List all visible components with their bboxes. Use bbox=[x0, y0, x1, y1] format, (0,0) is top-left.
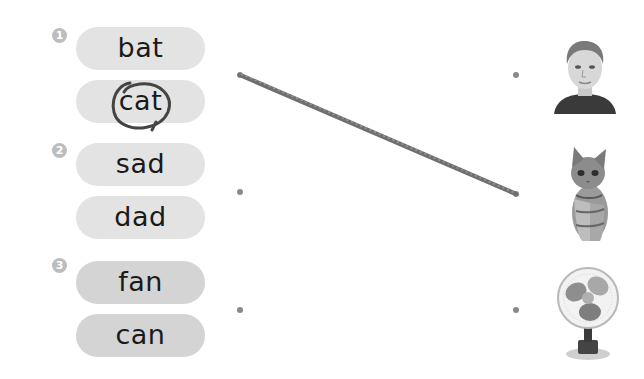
group-number-2: 2 bbox=[52, 143, 67, 158]
picture-2-dot[interactable] bbox=[513, 191, 519, 197]
word-pill-dad[interactable]: dad bbox=[76, 196, 205, 239]
word-pill-fan[interactable]: fan bbox=[76, 261, 205, 304]
group-number-3: 3 bbox=[52, 258, 67, 273]
boy-photo bbox=[550, 36, 620, 114]
picture-3-dot[interactable] bbox=[513, 307, 519, 313]
kitten-photo bbox=[560, 143, 616, 243]
match-line bbox=[240, 75, 516, 194]
word-pill-cat[interactable]: cat bbox=[76, 80, 205, 123]
group-number-1: 1 bbox=[52, 28, 67, 43]
group-3-dot[interactable] bbox=[237, 307, 243, 313]
desk-fan-photo bbox=[556, 266, 620, 362]
word-pill-bat[interactable]: bat bbox=[76, 27, 205, 70]
group-1-dot[interactable] bbox=[237, 72, 243, 78]
group-2-dot[interactable] bbox=[237, 189, 243, 195]
word-pill-sad[interactable]: sad bbox=[76, 143, 205, 186]
picture-1-dot[interactable] bbox=[513, 72, 519, 78]
word-pill-can[interactable]: can bbox=[76, 314, 205, 357]
